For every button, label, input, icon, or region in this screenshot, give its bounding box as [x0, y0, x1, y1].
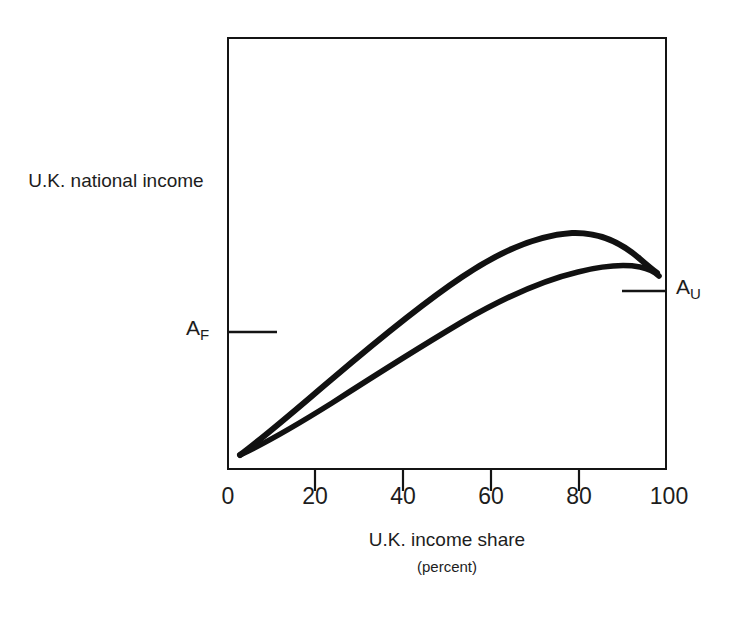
x-tick-label-100: 100 [634, 482, 704, 510]
x-tick-label-60: 60 [456, 482, 526, 510]
marker-label-af: AF [186, 316, 209, 342]
x-tick-label-40: 40 [368, 482, 438, 510]
x-tick-label-0: 0 [193, 482, 263, 510]
x-tick-label-80: 80 [544, 482, 614, 510]
y-axis-title: U.K. national income [24, 168, 208, 194]
x-axis-title: U.K. income share [297, 527, 597, 553]
x-tick-label-20: 20 [280, 482, 350, 510]
marker-label-au: AU [676, 275, 701, 301]
marker-au-subscript: U [690, 285, 701, 302]
marker-af-subscript: F [200, 326, 209, 343]
chart-figure: U.K. national income U.K. income share (… [0, 0, 739, 624]
x-axis-subtitle: (percent) [347, 557, 547, 577]
marker-au-base: A [676, 275, 690, 298]
plot-area-frame [227, 37, 667, 470]
marker-af-base: A [186, 316, 200, 339]
